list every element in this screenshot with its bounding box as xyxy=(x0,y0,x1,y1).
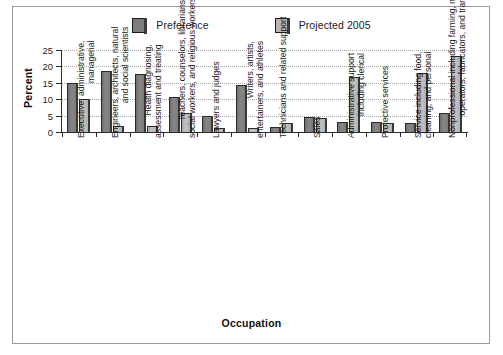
x-axis-tick-mark xyxy=(197,132,198,137)
x-axis-category-label: Executive, administrative,managerial xyxy=(76,41,96,138)
x-axis-category-label-line: Teachers, counselors, librarians, xyxy=(177,0,187,138)
x-axis-category-cell: Health diagnosing,assessment and treatin… xyxy=(130,138,164,308)
x-axis-category-label: Service including food,cleaning, and per… xyxy=(413,52,433,138)
x-axis-category-cell: Nonprofessional including farming, mecha… xyxy=(433,138,467,308)
y-axis-tick-label: 0 xyxy=(48,127,53,138)
y-axis-tick-label: 15 xyxy=(42,77,53,88)
x-axis-category-cell: Administrative supportincluding clerical xyxy=(332,138,366,308)
x-axis-category-label-line: Health diagnosing, xyxy=(143,44,153,138)
x-axis-category-label: Administrative supportincluding clerical xyxy=(346,53,366,138)
x-axis-category-label: Teachers, counselors, librarians,social … xyxy=(177,0,197,138)
x-axis-category-label-line: Writers, artists, xyxy=(245,41,255,138)
x-axis-category-label-line: assessment and treating xyxy=(153,44,163,138)
x-axis-category-label-line: Administrative support xyxy=(346,53,356,138)
x-axis-category-cell: Sales xyxy=(298,138,332,308)
x-axis-category-label: Protective services xyxy=(380,66,390,138)
y-axis-tick-label: 25 xyxy=(42,45,53,56)
x-axis-category-label-line: managerial xyxy=(86,41,96,138)
x-axis-category-label: Health diagnosing,assessment and treatin… xyxy=(143,44,163,138)
x-axis-category-label-line: entertainers, and athletes xyxy=(255,41,265,138)
x-axis-category-label-line: Protective services xyxy=(380,66,390,138)
x-axis-category-label-line: operators, fabricators, and transportati… xyxy=(457,0,467,138)
x-axis-category-label-line: Engineers, architects, natural xyxy=(110,27,120,138)
x-axis-category-label-line: including clerical xyxy=(356,53,366,138)
x-axis-category-label-line: Nonprofessional including farming, mecha… xyxy=(447,0,457,138)
y-axis-tick-label: 10 xyxy=(42,94,53,105)
x-axis-category-cell: Executive, administrative,managerial xyxy=(62,138,96,308)
x-axis-tick-mark xyxy=(433,132,434,137)
legend-label-projected-2005: Projected 2005 xyxy=(299,19,371,31)
legend-item-preference: Preference xyxy=(132,18,208,33)
x-axis-category-label: Writers, artists,entertainers, and athle… xyxy=(245,41,265,138)
x-axis-category-label-line: Lawyers and judges xyxy=(211,62,221,138)
x-axis-category-cell: Protective services xyxy=(366,138,400,308)
x-axis-category-label-line: Sales xyxy=(312,117,322,139)
x-axis-category-cell: Lawyers and judges xyxy=(197,138,231,308)
chart-figure: Preference Projected 2005 Percent 051015… xyxy=(0,0,503,355)
y-axis-tick-label: 20 xyxy=(42,61,53,72)
legend-item-projected-2005: Projected 2005 xyxy=(275,18,371,33)
x-axis-category-cell: Technicians and related support xyxy=(265,138,299,308)
x-axis-tick-mark xyxy=(400,132,401,137)
x-axis-category-cell: Service including food,cleaning, and per… xyxy=(400,138,434,308)
x-axis-tick-mark xyxy=(298,132,299,137)
x-axis-tick-mark xyxy=(332,132,333,137)
x-axis-tick-mark xyxy=(62,132,63,137)
x-axis-category-labels: Executive, administrative,managerialEngi… xyxy=(62,138,467,308)
x-axis-category-label-line: social workers, and religious workers xyxy=(187,0,197,138)
x-axis-category-cell: Teachers, counselors, librarians,social … xyxy=(163,138,197,308)
x-axis-tick-mark xyxy=(231,132,232,137)
x-axis-tick-mark xyxy=(163,132,164,137)
x-axis-category-cell: Writers, artists,entertainers, and athle… xyxy=(231,138,265,308)
x-axis-category-label: Technicians and related support xyxy=(278,17,288,138)
x-axis-category-label: Nonprofessional including farming, mecha… xyxy=(447,0,467,138)
chart-legend: Preference Projected 2005 xyxy=(0,14,503,36)
y-axis-ticks: 0510152025 xyxy=(0,50,61,132)
x-axis-category-label: Sales xyxy=(312,117,322,139)
x-axis-category-label-line: Technicians and related support xyxy=(278,17,288,138)
x-axis-category-label-line: Executive, administrative, xyxy=(76,41,86,138)
x-axis-category-label-line: Service including food, xyxy=(413,52,423,138)
x-axis-category-label: Lawyers and judges xyxy=(211,62,221,138)
x-axis-category-label-line: cleaning, and personal xyxy=(423,52,433,138)
x-axis-category-cell: Engineers, architects, naturaland social… xyxy=(96,138,130,308)
legend-swatch-preference xyxy=(132,18,147,33)
x-axis-title: Occupation xyxy=(0,317,503,329)
x-axis-category-label-line: and social scientists xyxy=(120,27,130,138)
y-axis-tick-label: 5 xyxy=(48,110,53,121)
x-axis-category-label: Engineers, architects, naturaland social… xyxy=(110,27,130,138)
